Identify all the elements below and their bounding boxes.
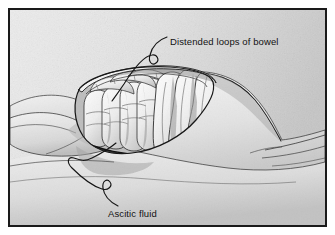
medical-illustration-figure: Distended loops of bowel Ascitic fluid [0, 0, 335, 235]
label-distended-loops-of-bowel: Distended loops of bowel [170, 36, 279, 47]
illustration-frame: Distended loops of bowel Ascitic fluid [8, 8, 327, 227]
label-ascitic-fluid: Ascitic fluid [108, 208, 157, 219]
